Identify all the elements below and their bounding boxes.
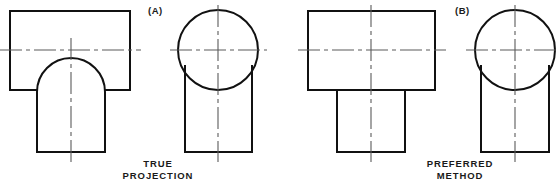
panel-a-group: [0, 5, 267, 162]
caption-true-line1: TRUE: [93, 158, 223, 170]
caption-preferred-method: PREFERRED METHOD: [395, 158, 525, 181]
view-tag-b: (B): [455, 5, 470, 16]
panel-b-group: [298, 5, 559, 162]
caption-preferred-line1: PREFERRED: [395, 158, 525, 170]
view-tag-a: (A): [148, 5, 163, 16]
drawing-sheet: (A) (B) TRUE PROJECTION PREFERRED METHOD: [0, 0, 559, 185]
caption-true-projection: TRUE PROJECTION: [93, 158, 223, 181]
front-view-a: [10, 11, 130, 152]
caption-preferred-line2: METHOD: [395, 170, 525, 182]
caption-true-line2: PROJECTION: [93, 170, 223, 182]
